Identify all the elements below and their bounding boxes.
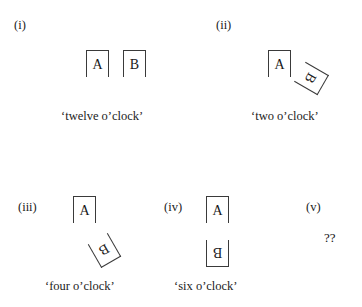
panel-label-ii: (ii) [216, 19, 231, 32]
letter-box-b-ii: B [294, 62, 329, 95]
panel-label-v: (v) [306, 201, 321, 214]
letter-glyph-b: B [130, 58, 139, 72]
caption-i: ‘twelve o’clock’ [61, 110, 143, 123]
letter-box-a-i: A [86, 50, 109, 77]
caption-iv: ‘six o’clock’ [174, 280, 238, 293]
caption-ii: ‘two o’clock’ [251, 110, 319, 123]
panel-label-iv: (iv) [164, 201, 182, 214]
caption-iii: ‘four o’clock’ [45, 280, 115, 293]
letter-box-b-iii: B [88, 233, 121, 268]
letter-box-b-i: B [123, 50, 146, 77]
letter-glyph-b: B [96, 241, 111, 258]
letter-box-b-iv: B [206, 240, 229, 267]
letter-glyph-a: A [79, 204, 89, 218]
letter-glyph-b: B [302, 70, 319, 85]
unknown-marker-v: ?? [324, 231, 336, 244]
panel-label-i: (i) [14, 19, 26, 32]
figure-canvas: (i) A B ‘twelve o’clock’ (ii) A B ‘two o… [0, 0, 362, 307]
letter-glyph-b: B [213, 246, 222, 260]
letter-glyph-a: A [212, 204, 222, 218]
letter-glyph-a: A [92, 58, 102, 72]
panel-label-iii: (iii) [18, 201, 37, 214]
letter-box-a-iv: A [206, 196, 229, 223]
letter-glyph-a: A [274, 58, 284, 72]
letter-box-a-iii: A [73, 196, 96, 223]
letter-box-a-ii: A [268, 50, 291, 77]
